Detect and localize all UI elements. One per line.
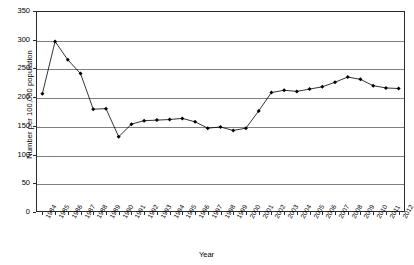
x-tick-mark: [42, 212, 43, 215]
gridline: [37, 184, 404, 185]
x-tick-mark: [386, 212, 387, 215]
y-tick-mark: [33, 68, 36, 69]
y-tick-label: 350: [4, 7, 30, 15]
x-tick-mark: [348, 212, 349, 215]
gridline: [37, 41, 404, 42]
x-tick-mark: [68, 212, 69, 215]
x-tick-mark: [157, 212, 158, 215]
y-tick-label: 250: [4, 64, 30, 72]
y-tick-label: 50: [4, 179, 30, 187]
x-tick-mark: [55, 212, 56, 215]
y-tick-mark: [33, 212, 36, 213]
gridline: [37, 69, 404, 70]
x-tick-mark: [119, 212, 120, 215]
x-tick-mark: [170, 212, 171, 215]
y-tick-label: 200: [4, 93, 30, 101]
x-tick-mark: [297, 212, 298, 215]
y-tick-label: 0: [4, 208, 30, 216]
x-tick-mark: [335, 212, 336, 215]
y-tick-mark: [33, 40, 36, 41]
x-tick-mark: [106, 212, 107, 215]
x-tick-mark: [399, 212, 400, 215]
x-tick-mark: [195, 212, 196, 215]
y-tick-label: 300: [4, 36, 30, 44]
gridline: [37, 156, 404, 157]
x-axis-title: Year: [0, 250, 413, 259]
x-tick-mark: [93, 212, 94, 215]
y-tick-label: 100: [4, 151, 30, 159]
gridline: [37, 98, 404, 99]
y-tick-mark: [33, 126, 36, 127]
x-tick-mark: [373, 212, 374, 215]
x-tick-mark: [144, 212, 145, 215]
x-tick-mark: [246, 212, 247, 215]
x-tick-mark: [284, 212, 285, 215]
y-tick-mark: [33, 155, 36, 156]
x-tick-mark: [271, 212, 272, 215]
x-tick-mark: [208, 212, 209, 215]
x-tick-mark: [322, 212, 323, 215]
y-tick-mark: [33, 183, 36, 184]
y-tick-mark: [33, 97, 36, 98]
x-tick-mark: [221, 212, 222, 215]
x-tick-mark: [310, 212, 311, 215]
plot-area: [36, 11, 405, 212]
x-tick-mark: [233, 212, 234, 215]
y-tick-label: 150: [4, 122, 30, 130]
gridline: [37, 127, 404, 128]
y-tick-mark: [33, 11, 36, 12]
x-tick-mark: [81, 212, 82, 215]
x-tick-mark: [259, 212, 260, 215]
x-tick-mark: [182, 212, 183, 215]
